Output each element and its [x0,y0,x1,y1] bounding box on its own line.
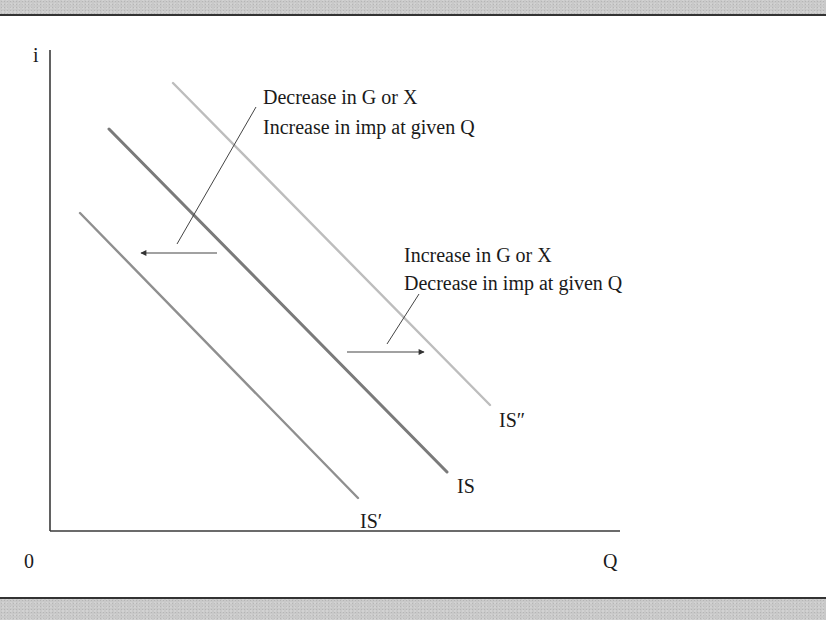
is-prime-label: IS′ [360,510,382,532]
left-annotation-line1: Decrease in G or X [263,86,418,108]
x-axis-label: Q [603,550,618,572]
y-axis-label: i [33,44,39,66]
right-annotation-line1: Increase in G or X [404,244,552,266]
is-prime-curve [80,213,358,498]
origin-label: 0 [24,550,34,572]
is-double-prime-label: IS″ [499,409,525,431]
right-annotation-line2: Decrease in imp at given Q [404,272,623,295]
left-annotation-line2: Increase in imp at given Q [263,116,475,139]
is-label: IS [457,475,475,497]
right-callout-line [387,294,419,344]
is-curve [109,129,447,472]
